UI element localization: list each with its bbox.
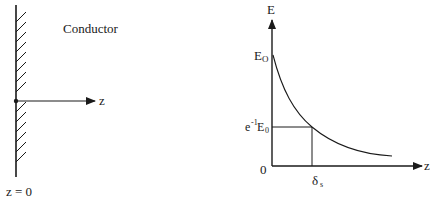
z-label-left: z <box>99 93 105 108</box>
svg-text:0: 0 <box>265 126 269 135</box>
svg-text:E: E <box>257 120 264 134</box>
z-axis-label-right: z <box>424 158 430 173</box>
conductor-wall <box>16 5 26 177</box>
svg-text:s: s <box>320 180 323 189</box>
origin-zero-label: 0 <box>260 162 267 177</box>
svg-text:O: O <box>262 54 269 64</box>
diagram-canvas: Conductor z z = 0 E z E O e -1 E 0 0 δ s <box>0 0 433 202</box>
wall-hatching <box>16 12 26 162</box>
conductor-label: Conductor <box>63 21 119 36</box>
e0-label: E O <box>254 48 269 64</box>
z-equals-zero-label: z = 0 <box>6 184 32 199</box>
skin-depth-label: δ s <box>312 173 323 189</box>
svg-text:δ: δ <box>312 173 318 188</box>
exponential-decay-curve <box>273 55 392 156</box>
decay-plot: E z E O e -1 E 0 0 δ s <box>245 2 430 189</box>
e-inverse-e0-label: e -1 E 0 <box>245 118 269 135</box>
svg-text:e: e <box>245 120 250 134</box>
svg-text:E: E <box>254 48 262 63</box>
e-axis-label: E <box>267 2 275 17</box>
